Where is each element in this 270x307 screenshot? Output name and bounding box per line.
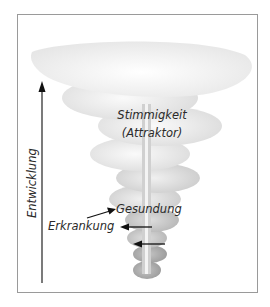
illness-label: Erkrankung [48,219,114,233]
health-label: Gesundung [116,202,182,216]
development-label: Entwicklung [25,148,39,218]
health-arrow-icon [87,208,116,219]
attractor-label: Stimmigkeit (Attraktor) [106,106,198,142]
attractor-label-line2: (Attraktor) [106,124,198,142]
spiral-diagram [0,0,270,307]
attractor-label-line1: Stimmigkeit [106,106,198,124]
development-arrow-icon [39,81,46,283]
